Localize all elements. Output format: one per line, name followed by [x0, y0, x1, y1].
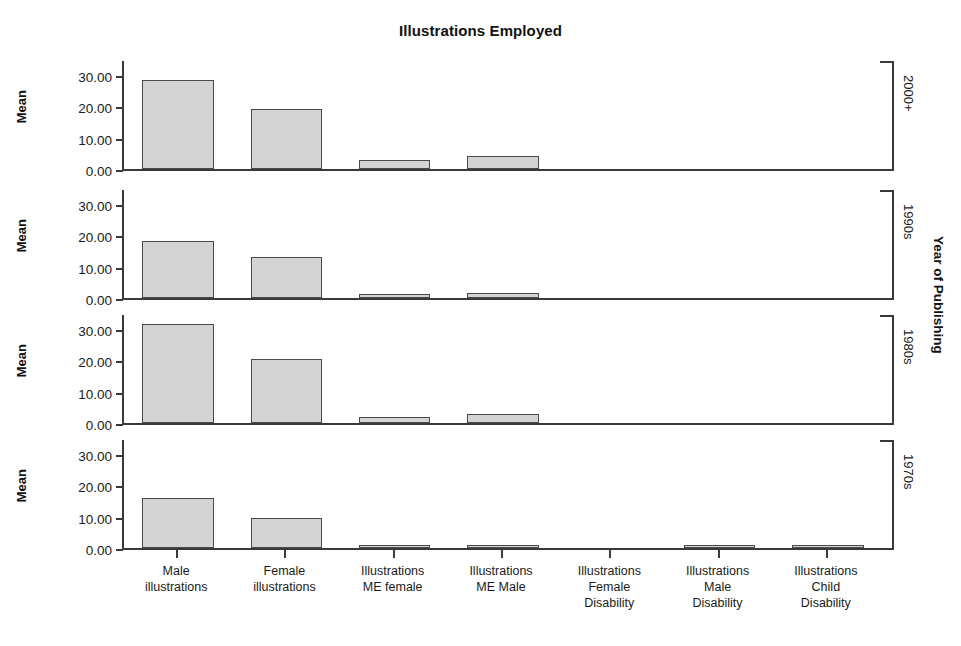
x-tick-label-line: Illustrations — [766, 563, 886, 579]
y-axis-title: Mean — [14, 219, 36, 252]
plot-area — [122, 440, 880, 550]
x-tick-label-line: Female — [549, 579, 669, 595]
bar — [142, 498, 213, 548]
y-tick-label: 30.00 — [40, 448, 112, 463]
strip-axis-title: Year of Publishing — [920, 236, 946, 354]
x-tick-label-line: ME female — [333, 579, 453, 595]
bar — [251, 257, 322, 298]
y-tick-label: 30.00 — [40, 323, 112, 338]
x-tick-label: IllustrationsMaleDisability — [658, 563, 778, 611]
bar — [684, 545, 755, 548]
panel-1980s: Mean0.0010.0020.0030.001980s — [0, 315, 961, 425]
y-tick-label: 20.00 — [40, 355, 112, 370]
panel-1990s: Mean0.0010.0020.0030.001990s — [0, 190, 961, 300]
bar — [142, 80, 213, 169]
x-tick-label-line: Illustrations — [333, 563, 453, 579]
panel-strip-label: 2000+ — [892, 75, 916, 112]
bar — [467, 414, 538, 423]
x-tick-label-line: illustrations — [116, 579, 236, 595]
x-tick-mark — [826, 550, 828, 558]
bar — [142, 324, 213, 423]
bar — [467, 156, 538, 169]
x-tick-label-line: Male — [658, 579, 778, 595]
panel-strip-label: 1980s — [892, 329, 916, 364]
y-tick-label: 0.00 — [40, 293, 112, 308]
x-tick-label-line: ME Male — [441, 579, 561, 595]
x-tick-mark — [609, 550, 611, 558]
y-tick-label: 0.00 — [40, 164, 112, 179]
x-tick-label: Maleillustrations — [116, 563, 236, 595]
x-tick-label-line: Male — [116, 563, 236, 579]
y-axis-title: Mean — [14, 469, 36, 502]
bar — [467, 545, 538, 548]
x-tick-label: IllustrationsChildDisability — [766, 563, 886, 611]
bar — [467, 293, 538, 298]
y-tick-label: 0.00 — [40, 543, 112, 558]
x-tick-label-line: Disability — [766, 595, 886, 611]
bar — [792, 545, 863, 548]
x-tick-mark — [501, 550, 503, 558]
y-axis-title: Mean — [14, 90, 36, 123]
x-tick-mark — [718, 550, 720, 558]
x-tick-label-line: Illustrations — [441, 563, 561, 579]
bar — [359, 160, 430, 169]
x-tick-label: IllustrationsME Male — [441, 563, 561, 595]
bar — [251, 518, 322, 548]
panel-1970s: Mean0.0010.0020.0030.001970s — [0, 440, 961, 550]
bar — [359, 545, 430, 548]
y-tick-label: 10.00 — [40, 511, 112, 526]
y-tick-label: 30.00 — [40, 198, 112, 213]
x-tick-label: IllustrationsFemaleDisability — [549, 563, 669, 611]
bar — [142, 241, 213, 298]
x-tick-label-line: Disability — [658, 595, 778, 611]
x-tick-mark — [176, 550, 178, 558]
x-tick-label: IllustrationsME female — [333, 563, 453, 595]
y-tick-label: 0.00 — [40, 418, 112, 433]
bar — [251, 359, 322, 423]
bar — [359, 417, 430, 423]
y-axis-title: Mean — [14, 344, 36, 377]
y-tick-label: 10.00 — [40, 386, 112, 401]
y-tick-label: 10.00 — [40, 132, 112, 147]
bar — [359, 294, 430, 298]
chart-title: Illustrations Employed — [0, 22, 961, 39]
chart-figure: Illustrations Employed Mean0.0010.0020.0… — [0, 0, 961, 646]
panel-2000plus: Mean0.0010.0020.0030.002000+ — [0, 61, 961, 171]
x-tick-label-line: Disability — [549, 595, 669, 611]
y-tick-label: 20.00 — [40, 480, 112, 495]
x-tick-mark — [284, 550, 286, 558]
panel-strip-label: 1990s — [892, 204, 916, 239]
y-tick-label: 20.00 — [40, 230, 112, 245]
plot-area — [122, 315, 880, 425]
x-tick-label-line: Illustrations — [658, 563, 778, 579]
x-tick-label-line: illustrations — [224, 579, 344, 595]
plot-area — [122, 61, 880, 171]
x-tick-label: Femaleillustrations — [224, 563, 344, 595]
y-tick-label: 10.00 — [40, 261, 112, 276]
x-tick-label-line: Female — [224, 563, 344, 579]
y-tick-label: 20.00 — [40, 101, 112, 116]
y-tick-label: 30.00 — [40, 69, 112, 84]
x-tick-mark — [393, 550, 395, 558]
x-tick-label-line: Illustrations — [549, 563, 669, 579]
bar — [251, 109, 322, 169]
plot-area — [122, 190, 880, 300]
panel-strip-label: 1970s — [892, 454, 916, 489]
x-tick-label-line: Child — [766, 579, 886, 595]
